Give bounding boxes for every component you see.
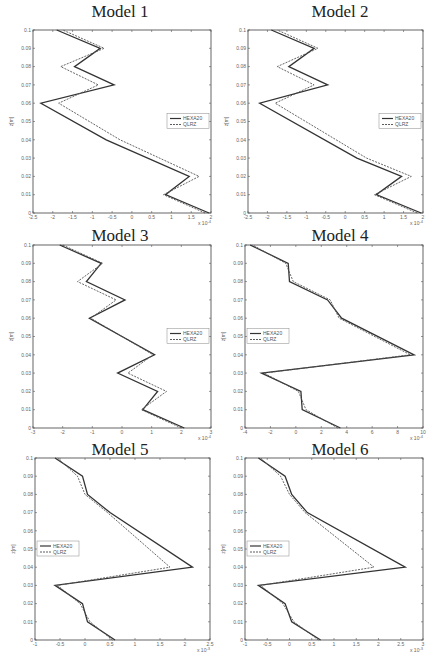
y-tick-label: 0.05 [233,546,243,552]
y-tick-label: 0.08 [233,491,243,497]
x-tick-label: -0.5 [263,641,272,647]
x-tick-label: -1 [243,641,248,647]
legend-label: QLRZ [263,549,276,555]
x-tick-label: 2 [377,641,380,647]
x-exponent-label: x 10-3 [410,646,424,653]
y-tick-label: 0.04 [233,564,243,570]
line-chart-6: -1-0.500.511.522.5300.010.020.030.040.05… [0,0,440,669]
x-tick-label: 1.5 [353,641,360,647]
y-axis-label: z[m] [220,544,226,554]
x-tick-label: 2.5 [397,641,404,647]
y-tick-label: 0.01 [233,619,243,625]
x-tick-label: 1 [333,641,336,647]
y-tick-label: 0.02 [233,600,243,606]
y-tick-label: 0.06 [233,528,243,534]
y-tick-label: 0.07 [233,509,243,515]
y-tick-label: 0.09 [233,473,243,479]
y-tick-label: 0 [240,637,243,643]
y-tick-label: 0.1 [236,455,243,461]
x-tick-label: 0 [288,641,291,647]
y-tick-label: 0.03 [233,582,243,588]
legend: HEXA20QLRZ [247,541,289,556]
x-tick-label: 0.5 [308,641,315,647]
